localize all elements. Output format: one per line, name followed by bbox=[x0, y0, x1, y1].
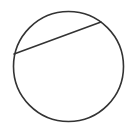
circle bbox=[14, 12, 124, 122]
chord-line bbox=[14, 22, 101, 54]
diagram-canvas bbox=[0, 0, 132, 132]
